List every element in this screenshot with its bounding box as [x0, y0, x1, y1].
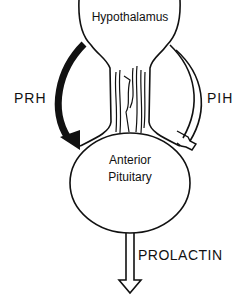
- hypothalamus-label: Hypothalamus: [90, 10, 170, 24]
- prolactin-output-arrow: [119, 233, 141, 293]
- anterior-pituitary-label-line2: Pituitary: [98, 169, 162, 186]
- pih-inhibitory-path: [170, 45, 194, 138]
- prh-stimulatory-arrow: [58, 44, 84, 138]
- prolactin-label: PROLACTIN: [138, 247, 223, 263]
- anterior-pituitary-label: Anterior Pituitary: [98, 152, 162, 186]
- pih-label: PIH: [207, 90, 233, 106]
- prh-label: PRH: [14, 90, 47, 106]
- anterior-pituitary-label-line1: Anterior: [98, 152, 162, 169]
